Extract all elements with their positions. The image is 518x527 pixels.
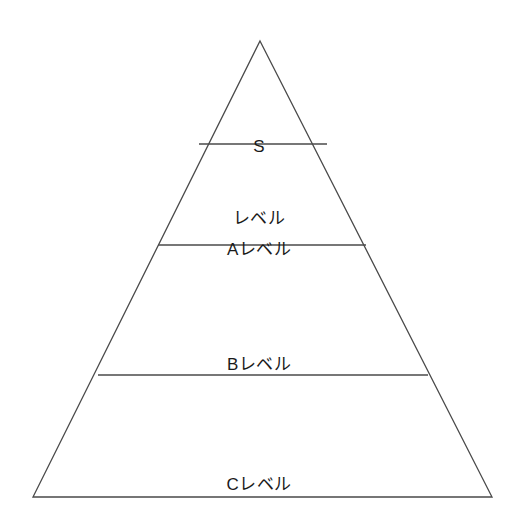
pyramid-diagram: S レベル Aレベル Bレベル Cレベル <box>0 0 518 527</box>
pyramid-tier-label-c: Cレベル <box>0 425 518 527</box>
pyramid-tier-label-c-line1: Cレベル <box>0 473 518 497</box>
pyramid-tier-label-s-line1: S <box>0 135 518 159</box>
pyramid-tier-label-a-line1: Aレベル <box>0 238 518 262</box>
pyramid-tier-label-b: Bレベル <box>0 305 518 425</box>
pyramid-tier-label-b-line1: Bレベル <box>0 353 518 377</box>
pyramid-tier-label-a: Aレベル <box>0 190 518 310</box>
